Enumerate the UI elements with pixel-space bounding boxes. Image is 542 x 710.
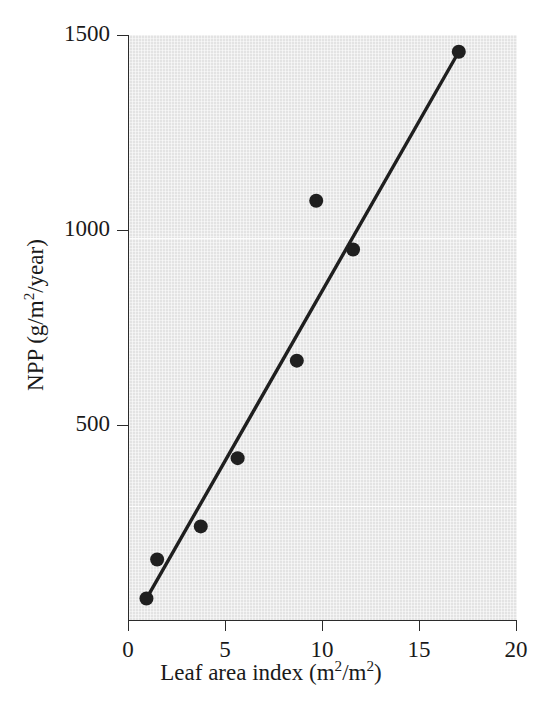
- data-point: [290, 354, 304, 368]
- x-axis-tick: [419, 620, 420, 631]
- data-point: [231, 451, 245, 465]
- data-point: [452, 45, 466, 59]
- x-axis-tick: [516, 620, 517, 631]
- data-point: [139, 592, 153, 606]
- y-axis-tick-label: 1500: [0, 22, 110, 45]
- x-axis-tick: [128, 620, 129, 631]
- trend-line: [146, 52, 458, 599]
- y-axis-title-text: NPP (g/m: [23, 300, 48, 391]
- y-axis-title: NPP (g/m2/year): [23, 135, 49, 495]
- x-axis-tick: [225, 620, 226, 631]
- y-axis-tick-label: 1000: [0, 217, 110, 240]
- x-axis-title-text: Leaf area index (m: [160, 660, 334, 685]
- plot-area: [128, 35, 517, 621]
- y-axis-title-exponent: 2: [20, 293, 37, 301]
- x-axis-title: Leaf area index (m2/m2): [0, 660, 542, 686]
- y-axis-tick: [117, 425, 128, 426]
- y-axis-tick: [117, 35, 128, 36]
- x-axis-tick-label: 10: [311, 638, 334, 661]
- chart-figure: 50010001500 05101520 NPP (g/m2/year) Lea…: [0, 0, 542, 710]
- data-point: [150, 553, 164, 567]
- x-axis-tick-label: 0: [122, 638, 134, 661]
- x-axis-tick: [322, 620, 323, 631]
- data-point: [309, 194, 323, 208]
- x-axis-tick-label: 15: [408, 638, 431, 661]
- y-axis-tick: [117, 230, 128, 231]
- y-axis-tick-label: 500: [0, 412, 110, 435]
- data-point: [346, 243, 360, 257]
- data-layer: [129, 35, 517, 620]
- x-axis-tick-label: 20: [505, 638, 528, 661]
- data-point: [194, 519, 208, 533]
- x-axis-tick-label: 5: [219, 638, 231, 661]
- x-axis-title-mid: /m: [342, 660, 366, 685]
- x-axis-title-close: ): [374, 660, 382, 685]
- y-axis-title-tail: /year): [23, 239, 48, 293]
- regression-line: [146, 52, 458, 599]
- x-axis-title-exponent-2: 2: [366, 657, 374, 674]
